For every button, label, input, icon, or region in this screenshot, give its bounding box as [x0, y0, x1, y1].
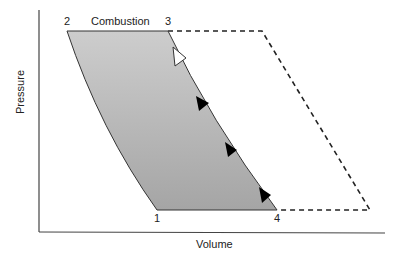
x-axis [39, 232, 385, 233]
point-label-1: 1 [154, 212, 160, 224]
process-label-combustion: Combustion [91, 15, 150, 27]
cycle-area [67, 31, 277, 210]
point-label-4: 4 [274, 212, 280, 224]
point-label-3: 3 [165, 15, 171, 27]
point-label-2: 2 [64, 15, 70, 27]
y-axis-label: Pressure [14, 70, 26, 114]
pv-diagram: 2 Combustion 3 1 4 Volume Pressure [0, 0, 399, 268]
x-axis-label: Volume [196, 238, 233, 250]
